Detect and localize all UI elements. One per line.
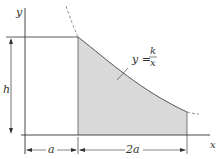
arrow-right-icon [180, 148, 186, 152]
arrow-left-icon [26, 148, 32, 152]
a-label: a [48, 143, 55, 156]
hyperbola-dashed-upper [66, 6, 78, 37]
equation-numerator: k [150, 45, 156, 56]
y-axis-label: y [15, 6, 23, 19]
hyperbola-dashed-lower [187, 112, 199, 114]
2a-label: 2a [125, 143, 140, 156]
arrow-down-icon [9, 128, 13, 134]
equation-lhs: y = [131, 53, 151, 66]
arrow-left-icon [79, 148, 85, 152]
equation-denominator: x [150, 57, 156, 68]
arrow-right-icon [71, 148, 77, 152]
height-label: h [3, 83, 10, 96]
hyperbola-area-diagram: y x h a 2a y = k x [0, 0, 219, 159]
shaded-region [78, 37, 187, 135]
arrow-up-icon [9, 38, 13, 44]
x-axis-label: x [210, 139, 216, 150]
